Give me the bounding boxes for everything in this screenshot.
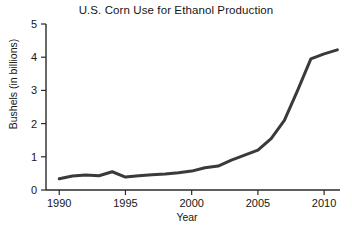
x-tick-label: 2005 [246,197,270,209]
y-tick-label: 0 [31,184,37,196]
plot-area: 012345 19901995200020052010 [0,0,352,232]
chart-figure: U.S. Corn Use for Ethanol Production Bus… [0,0,352,232]
y-axis-ticks: 012345 [31,18,46,196]
x-tick-label: 1995 [113,197,137,209]
x-tick-label: 1990 [47,197,71,209]
x-tick-label: 2010 [312,197,336,209]
y-tick-label: 5 [31,18,37,30]
y-tick-label: 1 [31,151,37,163]
y-tick-label: 2 [31,118,37,130]
y-tick-label: 4 [31,51,37,63]
x-tick-label: 2000 [179,197,203,209]
x-axis-ticks: 19901995200020052010 [47,190,336,209]
data-line-series-0 [59,50,337,179]
y-tick-label: 3 [31,84,37,96]
